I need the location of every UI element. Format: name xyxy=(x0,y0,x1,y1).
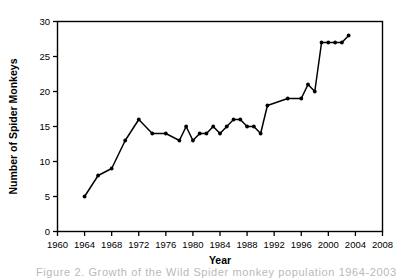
data-point-marker xyxy=(286,97,290,101)
data-point-marker xyxy=(211,125,215,129)
data-point-marker xyxy=(259,132,263,136)
data-point-marker xyxy=(347,34,351,38)
data-point-marker xyxy=(333,41,337,45)
x-axis-title: Year xyxy=(209,254,231,266)
data-point-marker xyxy=(252,125,256,129)
x-axis-tick-label: 2000 xyxy=(318,239,339,250)
x-axis-tick-label: 1960 xyxy=(47,239,68,250)
y-axis-tick-label: 25 xyxy=(39,51,50,62)
x-axis-tick-label: 1980 xyxy=(182,239,203,250)
data-point-marker xyxy=(184,125,188,129)
data-point-marker xyxy=(266,104,270,108)
data-point-marker xyxy=(313,90,317,94)
data-point-marker xyxy=(225,125,229,129)
x-axis-tick-label: 1972 xyxy=(128,239,149,250)
data-point-marker xyxy=(83,195,87,199)
y-axis-tick-label: 0 xyxy=(45,226,50,237)
data-point-marker xyxy=(232,118,236,122)
data-point-marker xyxy=(177,139,181,143)
data-point-marker xyxy=(123,139,127,143)
data-point-marker xyxy=(218,132,222,136)
y-axis-tick-label: 5 xyxy=(45,191,50,202)
data-point-marker xyxy=(137,118,141,122)
y-axis-tick-label: 15 xyxy=(39,121,50,132)
data-point-marker xyxy=(96,174,100,178)
figure-caption: Figure 2. Growth of the Wild Spider monk… xyxy=(0,266,414,278)
data-point-marker xyxy=(198,132,202,136)
data-series-line xyxy=(85,36,349,197)
x-axis-tick-label: 1988 xyxy=(237,239,258,250)
y-axis-tick-label: 30 xyxy=(39,16,50,27)
spider-monkey-line-chart: 0510152025301960196419681972197619801984… xyxy=(0,0,414,278)
x-axis-tick-label: 1996 xyxy=(291,239,312,250)
x-axis-tick-label: 1992 xyxy=(264,239,285,250)
data-point-marker xyxy=(110,167,114,171)
data-point-marker xyxy=(245,125,249,129)
x-axis-tick-label: 2008 xyxy=(372,239,393,250)
data-point-marker xyxy=(340,41,344,45)
data-point-marker xyxy=(191,139,195,143)
figure-container: 0510152025301960196419681972197619801984… xyxy=(0,0,414,278)
data-point-marker xyxy=(164,132,168,136)
data-point-marker xyxy=(238,118,242,122)
data-point-marker xyxy=(299,97,303,101)
data-point-marker xyxy=(320,41,324,45)
data-point-marker xyxy=(306,83,310,87)
x-axis-tick-label: 1976 xyxy=(155,239,176,250)
y-axis-tick-label: 20 xyxy=(39,86,50,97)
x-axis-tick-label: 1964 xyxy=(74,239,95,250)
x-axis-tick-label: 1984 xyxy=(209,239,230,250)
plot-frame xyxy=(58,22,383,232)
x-axis-tick-label: 2004 xyxy=(345,239,366,250)
data-point-marker xyxy=(150,132,154,136)
data-point-marker xyxy=(326,41,330,45)
data-point-marker xyxy=(205,132,209,136)
y-axis-title: Number of Spider Monkeys xyxy=(7,58,19,194)
y-axis-tick-label: 10 xyxy=(39,156,50,167)
x-axis-tick-label: 1968 xyxy=(101,239,122,250)
